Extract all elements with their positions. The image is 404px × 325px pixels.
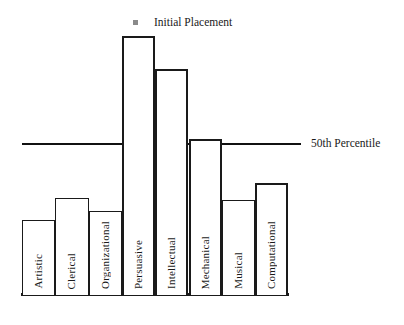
bar-artistic: Artistic [22, 220, 55, 295]
bar-clerical: Clerical [55, 198, 88, 295]
bar-label: Persuasive [133, 240, 144, 289]
bar-label: Intellectual [166, 237, 177, 289]
bar-label: Organizational [100, 221, 111, 289]
bar-label: Mechanical [200, 236, 211, 289]
bar-organizational: Organizational [89, 211, 122, 295]
bar-label: Artistic [33, 254, 44, 289]
bar-computational: Computational [255, 183, 288, 295]
bar-label: Clerical [66, 253, 77, 289]
percentile-reference-label: 50th Percentile [311, 137, 380, 150]
bars-plot-area: ArtisticClericalOrganizationalPersuasive… [22, 20, 288, 295]
bar-musical: Musical [222, 200, 255, 295]
bar-mechanical: Mechanical [189, 139, 222, 295]
bar-label: Computational [266, 221, 277, 289]
bar-intellectual: Intellectual [155, 69, 188, 295]
bar-persuasive: Persuasive [122, 36, 155, 295]
initial-placement-chart: Initial Placement 50th Percentile Artist… [0, 0, 404, 325]
bar-label: Musical [233, 252, 244, 289]
